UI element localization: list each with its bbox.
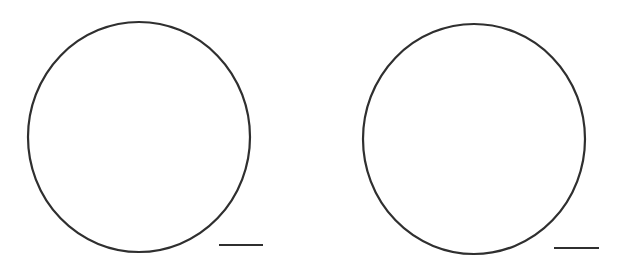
diagram-canvas bbox=[0, 0, 630, 272]
background bbox=[0, 0, 630, 272]
